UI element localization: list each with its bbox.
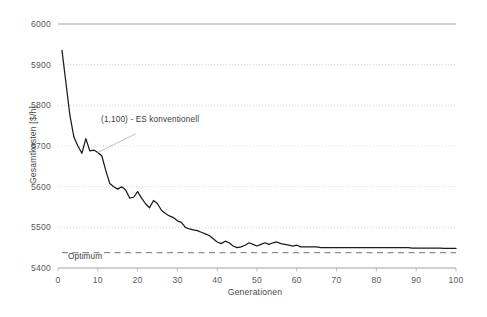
- x-tick-label-80: 80: [371, 275, 381, 285]
- callout-leader: [98, 134, 136, 153]
- cost-convergence-chart: 5400550056005700580059006000 01020304050…: [0, 0, 487, 317]
- y-axis-title: Gesamtkosten [$/h]: [28, 106, 38, 184]
- chart-container: 5400550056005700580059006000 01020304050…: [0, 0, 487, 317]
- gridlines-group: [58, 24, 456, 227]
- callout-leader-line: [98, 134, 136, 153]
- x-tick-label-30: 30: [172, 275, 182, 285]
- x-tick-label-60: 60: [292, 275, 302, 285]
- x-axis-title: Generationen: [228, 287, 282, 297]
- x-tick-label-90: 90: [411, 275, 421, 285]
- x-tick-label-70: 70: [332, 275, 342, 285]
- optimum-label: Optimum: [68, 252, 102, 261]
- y-tick-label-5500: 5500: [31, 222, 51, 232]
- y-tick-label-5900: 5900: [31, 60, 51, 70]
- x-tick-labels-group: 0102030405060708090100: [56, 275, 464, 285]
- x-tick-label-50: 50: [252, 275, 262, 285]
- tickmarks-group: [58, 268, 456, 272]
- x-tick-label-10: 10: [93, 275, 103, 285]
- series-callout-label: (1,100) - ES konventionell: [101, 115, 199, 124]
- x-tick-label-0: 0: [56, 275, 61, 285]
- series-line-group: [62, 50, 456, 248]
- y-tick-label-6000: 6000: [31, 19, 51, 29]
- x-tick-label-20: 20: [133, 275, 143, 285]
- series-line-0: [62, 50, 456, 248]
- x-tick-label-40: 40: [212, 275, 222, 285]
- x-tick-label-100: 100: [449, 275, 464, 285]
- y-tick-label-5400: 5400: [31, 263, 51, 273]
